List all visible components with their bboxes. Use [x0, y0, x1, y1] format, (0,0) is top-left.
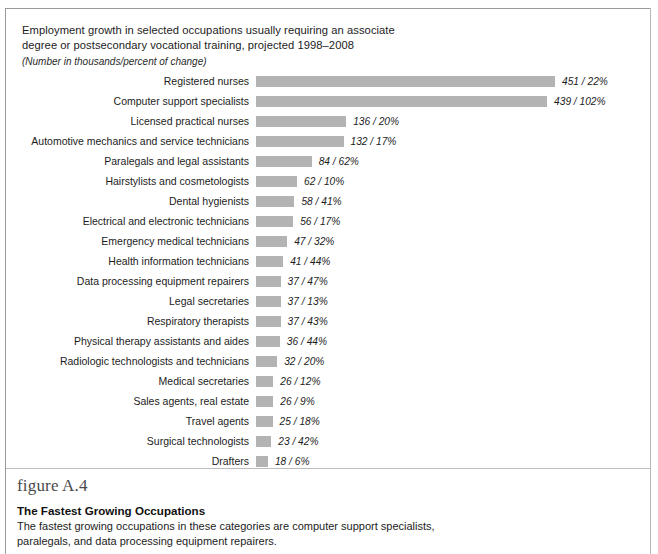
- chart-title-line-2: degree or postsecondary vocational train…: [22, 38, 582, 53]
- bar-category-label: Dental hygienists: [6, 195, 256, 207]
- bar-row: Registered nurses451 / 22%: [6, 71, 650, 91]
- bar-row: Licensed practical nurses136 / 20%: [6, 111, 650, 131]
- bar-category-label: Emergency medical technicians: [6, 235, 256, 247]
- frame-border-right: [650, 8, 651, 554]
- bar-value-label: 132 / 17%: [344, 136, 397, 147]
- panel-divider: [6, 468, 650, 469]
- bar-category-label: Health information technicians: [6, 255, 256, 267]
- bar-track: 439 / 102%: [256, 91, 650, 111]
- bar-category-label: Respiratory therapists: [6, 315, 256, 327]
- bar-track: 136 / 20%: [256, 111, 650, 131]
- bar-category-label: Travel agents: [6, 415, 256, 427]
- bar-fill: [256, 216, 293, 227]
- bar-value-label: 439 / 102%: [547, 96, 606, 107]
- bar-track: 84 / 62%: [256, 151, 650, 171]
- bar-fill: [256, 176, 297, 187]
- chart-title-line-1: Employment growth in selected occupation…: [22, 23, 582, 38]
- bar-fill: [256, 136, 344, 147]
- bar-track: 41 / 44%: [256, 251, 650, 271]
- bar-track: 37 / 47%: [256, 271, 650, 291]
- bar-value-label: 62 / 10%: [297, 176, 344, 187]
- bar-row: Travel agents25 / 18%: [6, 411, 650, 431]
- bar-row: Medical secretaries26 / 12%: [6, 371, 650, 391]
- bar-category-label: Automotive mechanics and service technic…: [6, 135, 256, 147]
- bar-track: 32 / 20%: [256, 351, 650, 371]
- bar-row: Surgical technologists23 / 42%: [6, 431, 650, 451]
- bar-category-label: Data processing equipment repairers: [6, 275, 256, 287]
- bar-row: Hairstylists and cosmetologists62 / 10%: [6, 171, 650, 191]
- bar-category-label: Paralegals and legal assistants: [6, 155, 256, 167]
- bar-fill: [256, 156, 312, 167]
- bar-fill: [256, 96, 547, 107]
- bar-track: 37 / 43%: [256, 311, 650, 331]
- chart-header: Employment growth in selected occupation…: [22, 23, 582, 69]
- figure-page: Employment growth in selected occupation…: [0, 0, 658, 554]
- caption-body-line-2: paralegals, and data processing equipmen…: [17, 534, 627, 549]
- figure-number: figure A.4: [17, 476, 627, 496]
- bar-row: Legal secretaries37 / 13%: [6, 291, 650, 311]
- bar-value-label: 56 / 17%: [293, 216, 340, 227]
- bar-chart-rows: Registered nurses451 / 22%Computer suppo…: [6, 71, 650, 471]
- bar-value-label: 37 / 13%: [281, 296, 328, 307]
- bar-track: 26 / 9%: [256, 391, 650, 411]
- bar-fill: [256, 436, 271, 447]
- bar-track: 132 / 17%: [256, 131, 650, 151]
- bar-fill: [256, 336, 280, 347]
- bar-row: Radiologic technologists and technicians…: [6, 351, 650, 371]
- bar-category-label: Computer support specialists: [6, 95, 256, 107]
- bar-row: Dental hygienists58 / 41%: [6, 191, 650, 211]
- bar-row: Electrical and electronic technicians56 …: [6, 211, 650, 231]
- bar-track: 23 / 42%: [256, 431, 650, 451]
- chart-subtitle: (Number in thousands/percent of change): [22, 54, 582, 69]
- bar-value-label: 41 / 44%: [283, 256, 330, 267]
- bar-fill: [256, 456, 268, 467]
- bar-row: Paralegals and legal assistants84 / 62%: [6, 151, 650, 171]
- bar-fill: [256, 356, 277, 367]
- bar-value-label: 25 / 18%: [273, 416, 320, 427]
- bar-fill: [256, 416, 273, 427]
- figure-caption: figure A.4 The Fastest Growing Occupatio…: [17, 476, 627, 548]
- bar-fill: [256, 376, 273, 387]
- bar-row: Automotive mechanics and service technic…: [6, 131, 650, 151]
- chart-panel: Employment growth in selected occupation…: [6, 9, 650, 468]
- bar-fill: [256, 116, 346, 127]
- bar-track: 451 / 22%: [256, 71, 650, 91]
- caption-body-line-1: The fastest growing occupations in these…: [17, 519, 627, 534]
- bar-fill: [256, 256, 283, 267]
- bar-track: 58 / 41%: [256, 191, 650, 211]
- bar-category-label: Drafters: [6, 455, 256, 467]
- bar-value-label: 84 / 62%: [312, 156, 359, 167]
- bar-fill: [256, 296, 281, 307]
- bar-fill: [256, 196, 294, 207]
- bar-value-label: 37 / 43%: [281, 316, 328, 327]
- bar-row: Data processing equipment repairers37 / …: [6, 271, 650, 291]
- bar-value-label: 18 / 6%: [268, 456, 310, 467]
- bar-category-label: Sales agents, real estate: [6, 395, 256, 407]
- bar-value-label: 451 / 22%: [555, 76, 608, 87]
- bar-row: Sales agents, real estate26 / 9%: [6, 391, 650, 411]
- bar-category-label: Medical secretaries: [6, 375, 256, 387]
- bar-row: Computer support specialists439 / 102%: [6, 91, 650, 111]
- bar-category-label: Radiologic technologists and technicians: [6, 355, 256, 367]
- bar-category-label: Hairstylists and cosmetologists: [6, 175, 256, 187]
- bar-value-label: 136 / 20%: [346, 116, 399, 127]
- bar-track: 25 / 18%: [256, 411, 650, 431]
- bar-value-label: 47 / 32%: [287, 236, 334, 247]
- bar-track: 47 / 32%: [256, 231, 650, 251]
- bar-row: Health information technicians41 / 44%: [6, 251, 650, 271]
- bar-row: Respiratory therapists37 / 43%: [6, 311, 650, 331]
- bar-fill: [256, 316, 281, 327]
- caption-title: The Fastest Growing Occupations: [17, 503, 627, 518]
- bar-fill: [256, 76, 555, 87]
- bar-value-label: 23 / 42%: [271, 436, 318, 447]
- bar-value-label: 26 / 12%: [273, 376, 320, 387]
- bar-category-label: Licensed practical nurses: [6, 115, 256, 127]
- bar-value-label: 58 / 41%: [294, 196, 341, 207]
- bar-track: 37 / 13%: [256, 291, 650, 311]
- bar-track: 26 / 12%: [256, 371, 650, 391]
- bar-value-label: 37 / 47%: [281, 276, 328, 287]
- bar-value-label: 32 / 20%: [277, 356, 324, 367]
- bar-track: 36 / 44%: [256, 331, 650, 351]
- bar-value-label: 26 / 9%: [273, 396, 315, 407]
- bar-track: 62 / 10%: [256, 171, 650, 191]
